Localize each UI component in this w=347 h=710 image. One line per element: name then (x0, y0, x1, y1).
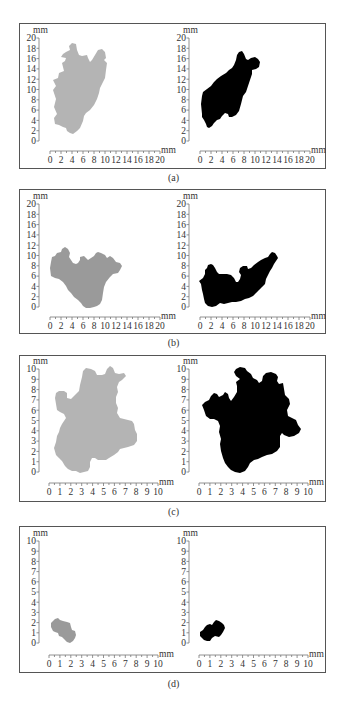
x-tick-label: 4 (70, 155, 75, 165)
x-unit-label: mm (311, 145, 326, 155)
region-b-left (50, 247, 122, 308)
y-tick-label: 8 (181, 557, 186, 567)
y-unit-label: mm (183, 25, 198, 35)
x-tick-label: 20 (155, 155, 165, 165)
x-tick-label: 12 (261, 155, 271, 165)
y-tick-label: 14 (27, 64, 37, 74)
x-tick-label: 8 (284, 659, 289, 669)
x-tick-label: 10 (153, 659, 163, 669)
x-tick-label: 6 (262, 487, 267, 497)
y-tick-label: 5 (181, 416, 186, 426)
x-unit-label: mm (159, 477, 174, 487)
x-tick-label: 10 (153, 487, 163, 497)
x-tick-label: 20 (305, 321, 315, 331)
x-tick-label: 10 (100, 155, 110, 165)
x-tick-label: 6 (262, 659, 267, 669)
x-tick-label: 6 (112, 659, 117, 669)
x-tick-label: 5 (101, 487, 106, 497)
x-tick-label: 0 (47, 487, 52, 497)
y-tick-label: 7 (31, 395, 36, 405)
x-tick-label: 10 (100, 321, 110, 331)
y-tick-label: 9 (31, 375, 36, 385)
x-tick-label: 7 (273, 659, 278, 669)
y-tick-label: 6 (31, 577, 36, 587)
x-tick-label: 12 (111, 155, 121, 165)
x-tick-label: 18 (294, 321, 304, 331)
x-tick-label: 10 (250, 321, 260, 331)
y-tick-label: 6 (31, 105, 36, 115)
y-tick-label: 0 (31, 136, 36, 146)
x-tick-label: 0 (48, 321, 53, 331)
y-tick-label: 18 (27, 210, 37, 220)
x-tick-label: 8 (92, 155, 97, 165)
y-tick-label: 6 (181, 577, 186, 587)
x-tick-label: 0 (197, 487, 202, 497)
x-tick-label: 1 (208, 487, 213, 497)
region-a-left (53, 43, 107, 134)
y-tick-label: 3 (181, 436, 186, 446)
x-tick-label: 3 (79, 487, 84, 497)
y-tick-label: 18 (27, 44, 37, 54)
y-tick-label: 2 (181, 447, 186, 457)
y-tick-label: 16 (177, 54, 187, 64)
x-tick-label: 1 (58, 659, 63, 669)
y-tick-label: 5 (181, 587, 186, 597)
x-tick-label: 14 (272, 155, 282, 165)
x-tick-label: 8 (242, 321, 247, 331)
x-tick-label: 10 (303, 659, 313, 669)
x-tick-label: 1 (208, 659, 213, 669)
x-tick-label: 6 (231, 155, 236, 165)
y-tick-label: 10 (27, 251, 37, 261)
y-tick-label: 8 (31, 261, 36, 271)
y-tick-label: 5 (31, 416, 36, 426)
y-tick-label: 14 (177, 230, 187, 240)
y-tick-label: 4 (31, 426, 36, 436)
y-unit-label: mm (33, 191, 48, 201)
y-tick-label: 16 (177, 220, 187, 230)
x-tick-label: 2 (59, 321, 64, 331)
y-tick-label: 0 (31, 467, 36, 477)
y-tick-label: 5 (31, 587, 36, 597)
x-tick-label: 20 (305, 155, 315, 165)
x-tick-label: 2 (218, 659, 223, 669)
region-c-left (54, 366, 137, 473)
y-tick-label: 8 (31, 95, 36, 105)
x-tick-label: 2 (68, 659, 73, 669)
x-tick-label: 18 (144, 321, 154, 331)
y-tick-label: 18 (177, 44, 187, 54)
x-tick-label: 12 (261, 321, 271, 331)
y-tick-label: 3 (181, 608, 186, 618)
y-tick-label: 7 (31, 567, 36, 577)
axes-panel-d-right: 012345678910mm012345678910mm (177, 528, 325, 669)
x-tick-label: 2 (209, 155, 214, 165)
region-c-right (202, 367, 301, 473)
x-tick-label: 6 (81, 321, 86, 331)
y-tick-label: 1 (181, 628, 186, 638)
x-tick-label: 5 (251, 487, 256, 497)
y-tick-label: 3 (31, 608, 36, 618)
y-tick-label: 8 (31, 557, 36, 567)
x-unit-label: mm (309, 649, 324, 659)
y-tick-label: 12 (27, 75, 37, 85)
y-tick-label: 9 (181, 547, 186, 557)
x-tick-label: 7 (123, 659, 128, 669)
y-tick-label: 7 (181, 395, 186, 405)
x-tick-label: 18 (294, 155, 304, 165)
y-tick-label: 4 (181, 116, 186, 126)
y-tick-label: 8 (31, 385, 36, 395)
x-tick-label: 2 (218, 487, 223, 497)
y-unit-label: mm (33, 25, 48, 35)
y-tick-label: 2 (181, 618, 186, 628)
x-tick-label: 10 (303, 487, 313, 497)
x-tick-label: 4 (70, 321, 75, 331)
y-tick-label: 10 (177, 251, 187, 261)
y-unit-label: mm (183, 528, 198, 538)
y-tick-label: 6 (181, 406, 186, 416)
x-tick-label: 20 (155, 321, 165, 331)
y-tick-label: 9 (181, 375, 186, 385)
y-unit-label: mm (33, 356, 48, 366)
y-tick-label: 4 (31, 598, 36, 608)
y-tick-label: 14 (27, 230, 37, 240)
x-tick-label: 3 (229, 487, 234, 497)
y-tick-label: 12 (27, 241, 37, 251)
